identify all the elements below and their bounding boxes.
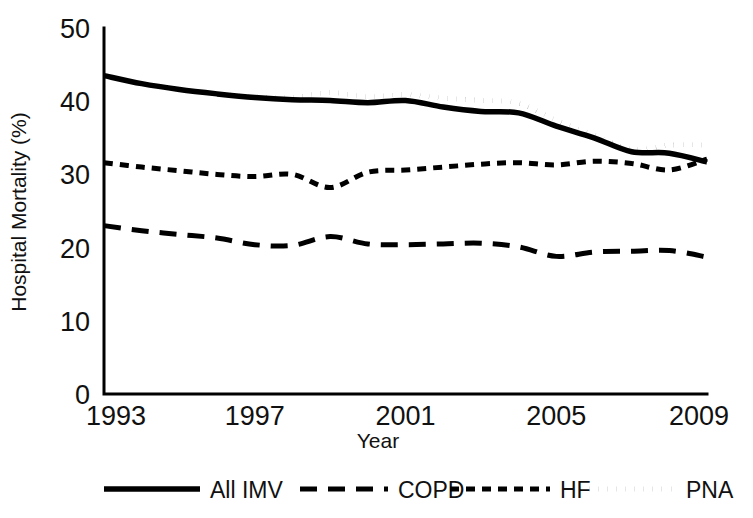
x-tick-label: 2009 <box>669 401 729 431</box>
y-axis-title: Hospital Mortality (%) <box>7 112 30 312</box>
legend-label-hf: HF <box>560 477 591 503</box>
series-line-pna <box>104 76 707 150</box>
legend-label-pna: PNA <box>686 477 734 503</box>
x-axis-tick-labels: 19931997200120052009 <box>86 401 729 431</box>
x-tick-label: 2001 <box>375 401 435 431</box>
y-tick-label: 20 <box>60 234 90 264</box>
y-tick-label: 10 <box>60 307 90 337</box>
data-series-group <box>104 76 707 258</box>
x-axis-title: Year <box>357 429 399 452</box>
x-tick-label: 1997 <box>225 401 285 431</box>
y-tick-label: 30 <box>60 160 90 190</box>
chart-legend: All IMVCOPDHFPNA <box>104 477 734 503</box>
y-tick-label: 50 <box>60 14 90 44</box>
series-line-hf <box>104 159 707 188</box>
x-tick-label: 2005 <box>526 401 586 431</box>
x-tick-label: 1993 <box>86 401 146 431</box>
chart-figure: 01020304050 19931997200120052009 Year Ho… <box>0 0 753 518</box>
y-tick-label: 40 <box>60 87 90 117</box>
y-axis-tick-labels: 01020304050 <box>60 14 90 410</box>
series-line-all-imv <box>104 76 707 162</box>
mortality-line-chart: 01020304050 19931997200120052009 Year Ho… <box>0 0 753 518</box>
chart-axes <box>104 28 707 394</box>
legend-label-all-imv: All IMV <box>210 477 284 503</box>
series-line-copd <box>104 226 707 257</box>
